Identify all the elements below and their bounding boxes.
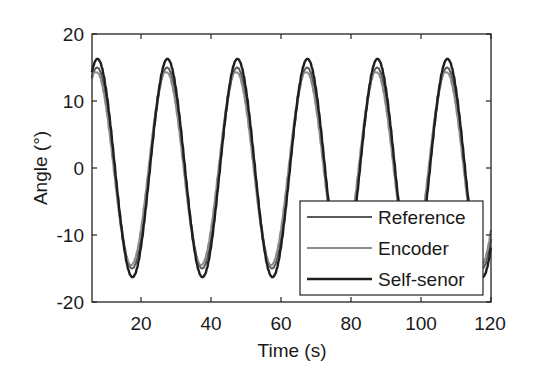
x-tick-label: 40	[200, 313, 221, 334]
x-axis-label: Time (s)	[258, 340, 327, 361]
x-tick-label: 20	[130, 313, 151, 334]
legend: Reference Encoder Self-senor	[300, 201, 483, 295]
x-tick-label: 60	[270, 313, 291, 334]
y-axis-label: Angle (°)	[30, 131, 51, 205]
y-tick-label: 0	[73, 158, 84, 179]
y-tick-label: -20	[57, 292, 84, 313]
y-tick-label: -10	[57, 225, 84, 246]
legend-label-reference: Reference	[378, 207, 466, 228]
chart-background	[0, 0, 534, 374]
x-tick-label: 80	[340, 313, 361, 334]
line-chart: 20 40 60 80 100 120 -20 -10 0 10 20 Time…	[0, 0, 534, 374]
x-tick-label: 100	[405, 313, 437, 334]
legend-label-self-senor: Self-senor	[378, 269, 465, 290]
legend-label-encoder: Encoder	[378, 238, 449, 259]
x-tick-label: 120	[474, 313, 506, 334]
y-tick-label: 10	[63, 91, 84, 112]
y-tick-label: 20	[63, 24, 84, 45]
